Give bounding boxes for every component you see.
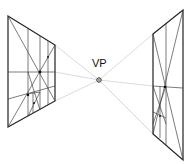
right-panel — [153, 10, 183, 160]
vp-guides — [55, 34, 153, 134]
vp-label: VP — [92, 58, 107, 69]
left-panel — [8, 16, 55, 127]
diagram-canvas — [0, 0, 188, 164]
vanishing-point-marker — [97, 78, 101, 82]
perspective-diagram: VP — [0, 0, 188, 164]
